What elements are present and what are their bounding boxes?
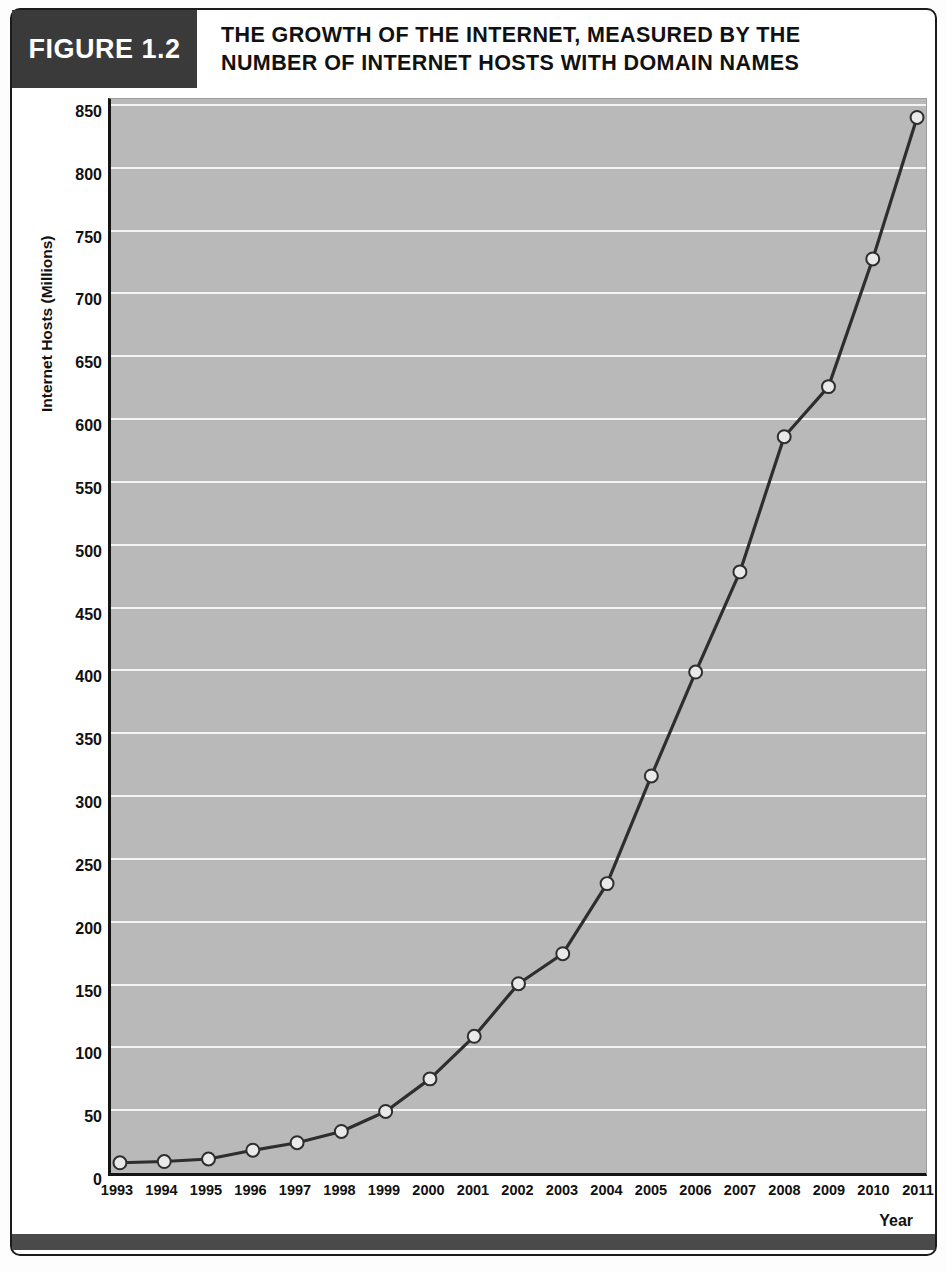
x-tick-label: 2003 bbox=[546, 1182, 578, 1198]
figure-header: FIGURE 1.2 THE GROWTH OF THE INTERNET, M… bbox=[12, 10, 935, 88]
data-point-marker bbox=[158, 1155, 171, 1168]
data-point-marker bbox=[556, 947, 569, 960]
figure-number-tag: FIGURE 1.2 bbox=[12, 10, 197, 88]
y-tick-label: 800 bbox=[22, 166, 108, 184]
y-axis-tick-labels: 0501001502002503003504004505005506006507… bbox=[12, 98, 108, 1176]
x-tick-label: 1993 bbox=[101, 1182, 133, 1198]
y-tick-label: 200 bbox=[22, 920, 108, 938]
x-tick-label: 2009 bbox=[813, 1182, 845, 1198]
footer-bar bbox=[12, 1234, 935, 1250]
data-point-marker bbox=[291, 1136, 304, 1149]
series-line bbox=[120, 117, 917, 1162]
x-tick-label: 2001 bbox=[457, 1182, 489, 1198]
y-tick-label: 0 bbox=[22, 1171, 108, 1189]
data-point-marker bbox=[423, 1072, 436, 1085]
figure-page: FIGURE 1.2 THE GROWTH OF THE INTERNET, M… bbox=[0, 0, 947, 1273]
x-tick-label: 2004 bbox=[590, 1182, 622, 1198]
x-tick-label: 2007 bbox=[724, 1182, 756, 1198]
x-tick-label: 1995 bbox=[190, 1182, 222, 1198]
data-point-marker bbox=[911, 111, 924, 124]
figure-title-line-1: THE GROWTH OF THE INTERNET, MEASURED BY … bbox=[221, 21, 935, 49]
y-tick-label: 100 bbox=[22, 1045, 108, 1063]
x-tick-label: 2000 bbox=[412, 1182, 444, 1198]
chart-region: Internet Hosts (Millions) 05010015020025… bbox=[12, 90, 935, 1200]
data-point-marker bbox=[246, 1144, 259, 1157]
y-tick-label: 650 bbox=[22, 354, 108, 372]
y-tick-label: 450 bbox=[22, 606, 108, 624]
data-point-marker bbox=[645, 769, 658, 782]
data-point-marker bbox=[202, 1153, 215, 1166]
data-point-marker bbox=[379, 1105, 392, 1118]
x-tick-label: 1999 bbox=[368, 1182, 400, 1198]
figure-title: THE GROWTH OF THE INTERNET, MEASURED BY … bbox=[197, 10, 935, 88]
data-point-marker bbox=[601, 877, 614, 890]
x-tick-label: 2008 bbox=[768, 1182, 800, 1198]
y-tick-label: 750 bbox=[22, 229, 108, 247]
data-point-marker bbox=[733, 565, 746, 578]
x-axis-tick-labels: 1993199419951996199719981999200020012002… bbox=[108, 1182, 927, 1208]
plot-area bbox=[108, 98, 927, 1176]
data-point-marker bbox=[335, 1125, 348, 1138]
data-point-marker bbox=[512, 977, 525, 990]
plot-inner bbox=[111, 99, 926, 1173]
y-tick-label: 150 bbox=[22, 983, 108, 1001]
x-tick-label: 1996 bbox=[234, 1182, 266, 1198]
y-tick-label: 350 bbox=[22, 731, 108, 749]
y-tick-label: 300 bbox=[22, 794, 108, 812]
data-point-marker bbox=[113, 1156, 126, 1169]
data-point-marker bbox=[866, 252, 879, 265]
y-tick-label: 250 bbox=[22, 857, 108, 875]
figure-title-line-2: NUMBER OF INTERNET HOSTS WITH DOMAIN NAM… bbox=[221, 49, 935, 77]
x-tick-label: 1997 bbox=[279, 1182, 311, 1198]
line-series-svg bbox=[111, 99, 926, 1173]
y-tick-label: 400 bbox=[22, 668, 108, 686]
y-tick-label: 700 bbox=[22, 291, 108, 309]
x-tick-label: 1994 bbox=[145, 1182, 177, 1198]
data-point-marker bbox=[822, 380, 835, 393]
x-axis-title: Year bbox=[879, 1212, 913, 1230]
x-tick-label: 2011 bbox=[902, 1182, 933, 1198]
x-tick-label: 2005 bbox=[635, 1182, 667, 1198]
y-tick-label: 550 bbox=[22, 480, 108, 498]
y-tick-label: 850 bbox=[22, 103, 108, 121]
data-point-marker bbox=[468, 1030, 481, 1043]
y-tick-label: 50 bbox=[22, 1108, 108, 1126]
data-point-marker bbox=[778, 430, 791, 443]
x-tick-label: 2010 bbox=[857, 1182, 889, 1198]
x-tick-label: 2006 bbox=[679, 1182, 711, 1198]
y-tick-label: 500 bbox=[22, 543, 108, 561]
x-tick-label: 1998 bbox=[323, 1182, 355, 1198]
x-tick-label: 2002 bbox=[501, 1182, 533, 1198]
y-tick-label: 600 bbox=[22, 417, 108, 435]
data-point-marker bbox=[689, 666, 702, 679]
